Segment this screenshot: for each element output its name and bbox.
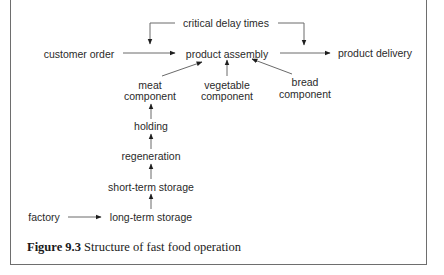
- fast-food-structure-diagram: critical delay times customer order prod…: [0, 0, 444, 275]
- figure-caption-text: Structure of fast food operation: [81, 240, 242, 254]
- node-holding: holding: [134, 120, 168, 132]
- node-product-delivery: product delivery: [338, 47, 413, 59]
- arrow-meat-to-assembly: [162, 62, 202, 76]
- figure-caption: Figure 9.3 Structure of fast food operat…: [27, 240, 242, 254]
- critical-delay-connector-left: [150, 23, 175, 44]
- node-product-assembly: product assembly: [186, 48, 269, 60]
- node-bread-component-line2: component: [279, 88, 331, 100]
- critical-delay-connector-right: [278, 23, 304, 45]
- node-customer-order: customer order: [44, 48, 115, 60]
- node-vegetable-component-line2: component: [201, 90, 253, 102]
- arrow-bread-to-assembly: [252, 59, 292, 74]
- node-critical-delay-times: critical delay times: [183, 17, 269, 29]
- node-long-term-storage: long-term storage: [110, 211, 192, 223]
- node-factory: factory: [28, 211, 60, 223]
- figure-caption-label: Figure 9.3: [27, 240, 81, 254]
- node-bread-component-line1: bread: [292, 76, 319, 88]
- node-regeneration: regeneration: [122, 150, 181, 162]
- node-meat-component-line2: component: [124, 90, 176, 102]
- node-short-term-storage: short-term storage: [108, 181, 194, 193]
